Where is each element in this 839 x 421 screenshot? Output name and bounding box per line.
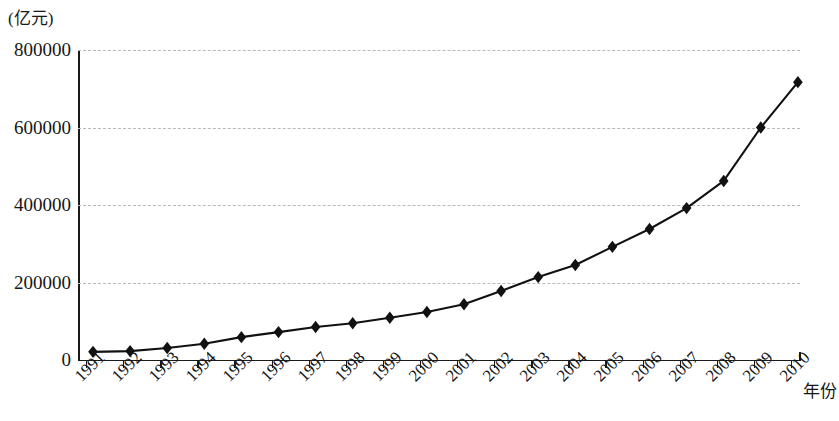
data-point-marker xyxy=(682,202,692,214)
data-point-marker xyxy=(274,326,284,338)
data-point-marker xyxy=(570,259,580,271)
chart-figure: (亿元) 0200000400000600000800000 199119921… xyxy=(0,0,839,421)
y-axis-tick-label: 600000 xyxy=(14,117,71,139)
y-axis-tick-label: 400000 xyxy=(14,194,71,216)
data-point-marker xyxy=(645,223,655,235)
data-point-marker xyxy=(237,331,247,343)
data-point-marker xyxy=(533,271,543,283)
data-point-marker xyxy=(422,306,432,318)
y-axis-tick-label: 0 xyxy=(62,349,72,371)
series-line xyxy=(93,82,798,352)
data-series-gdp xyxy=(78,50,800,360)
series-marker-group xyxy=(88,76,803,358)
x-axis-title: 年份 xyxy=(803,377,837,402)
data-point-marker xyxy=(496,285,506,297)
data-point-marker xyxy=(608,241,618,253)
y-axis-tick-label-group: 0200000400000600000800000 xyxy=(0,0,71,421)
plot-area xyxy=(78,50,800,360)
data-point-marker xyxy=(459,298,469,310)
data-point-marker xyxy=(385,312,395,324)
data-point-marker xyxy=(311,321,321,333)
data-point-marker xyxy=(348,317,358,329)
y-axis-tick-label: 200000 xyxy=(14,272,71,294)
y-axis-tick-label: 800000 xyxy=(14,39,71,61)
